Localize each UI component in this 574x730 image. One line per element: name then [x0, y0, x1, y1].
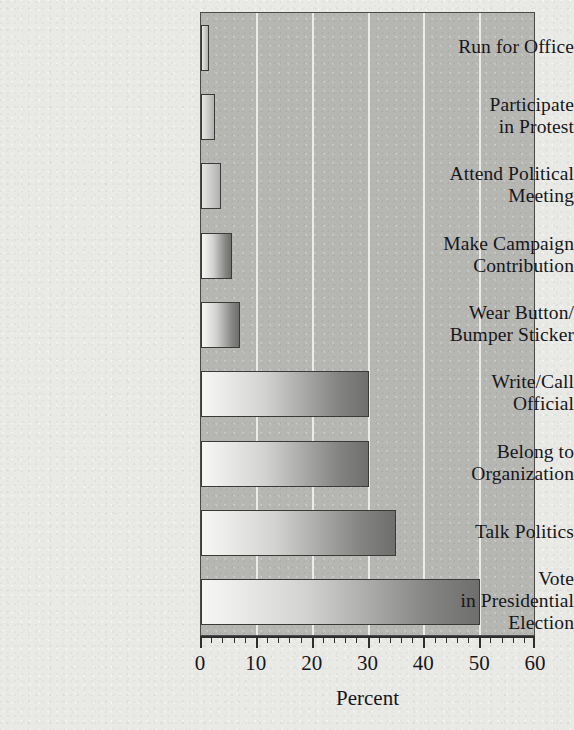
x-tick-major-20	[312, 636, 314, 648]
x-tick-minor	[502, 636, 503, 643]
category-label-line: Election	[382, 612, 574, 634]
x-tick-minor	[323, 636, 324, 643]
x-tick-label-20: 20	[282, 651, 342, 676]
x-tick-minor	[234, 636, 235, 643]
x-tick-minor	[289, 636, 290, 643]
x-tick-label-50: 50	[449, 651, 509, 676]
x-tick-major-60	[533, 636, 535, 648]
category-label-line: Attend Political	[382, 163, 574, 185]
bar	[201, 371, 369, 417]
bar	[201, 233, 232, 279]
bar-chart-figure: Run for OfficeParticipatein ProtestAtten…	[0, 0, 574, 730]
x-tick-label-60: 60	[505, 651, 565, 676]
x-tick-minor	[390, 636, 391, 643]
x-tick-major-30	[368, 636, 370, 648]
category-label-line: Write/Call	[382, 371, 574, 393]
x-axis-title: Percent	[200, 686, 535, 711]
category-label-line: Organization	[382, 463, 574, 485]
bar	[201, 302, 240, 348]
x-tick-major-40	[423, 636, 425, 648]
bar	[201, 94, 215, 140]
x-axis	[200, 636, 535, 649]
x-tick-minor	[524, 636, 525, 643]
category-label-line: Bumper Sticker	[382, 324, 574, 346]
bar	[201, 163, 221, 209]
x-tick-label-0: 0	[170, 651, 230, 676]
category-label-line: in Protest	[382, 116, 574, 138]
x-tick-major-0	[200, 636, 202, 648]
x-tick-label-10: 10	[226, 651, 286, 676]
x-tick-minor	[490, 636, 491, 643]
x-tick-minor	[267, 636, 268, 643]
category-label-line: Contribution	[382, 255, 574, 277]
x-tick-minor	[278, 636, 279, 643]
x-tick-major-50	[479, 636, 481, 648]
category-label-line: Meeting	[382, 185, 574, 207]
x-tick-minor	[446, 636, 447, 643]
x-tick-minor	[513, 636, 514, 643]
category-label-line: Talk Politics	[382, 521, 574, 543]
x-tick-minor	[222, 636, 223, 643]
category-label-line: Belong to	[382, 441, 574, 463]
category-label-line: Official	[382, 393, 574, 415]
x-tick-minor	[435, 636, 436, 643]
category-label-line: in Presidential	[382, 590, 574, 612]
x-tick-minor	[301, 636, 302, 643]
x-tick-minor	[412, 636, 413, 643]
x-tick-minor	[379, 636, 380, 643]
bar	[201, 25, 209, 71]
x-tick-minor	[334, 636, 335, 643]
x-tick-minor	[468, 636, 469, 643]
category-label-line: Vote	[382, 568, 574, 590]
category-label-line: Make Campaign	[382, 233, 574, 255]
category-label-line: Participate	[382, 94, 574, 116]
x-tick-label-30: 30	[338, 651, 398, 676]
category-label-line: Wear Button/	[382, 302, 574, 324]
x-tick-minor	[356, 636, 357, 643]
x-tick-major-10	[256, 636, 258, 648]
category-label-line: Run for Office	[382, 36, 574, 58]
x-tick-label-40: 40	[393, 651, 453, 676]
bar	[201, 510, 396, 556]
x-tick-minor	[345, 636, 346, 643]
x-tick-minor	[457, 636, 458, 643]
bar	[201, 441, 369, 487]
x-tick-minor	[211, 636, 212, 643]
x-tick-minor	[401, 636, 402, 643]
x-tick-minor	[245, 636, 246, 643]
